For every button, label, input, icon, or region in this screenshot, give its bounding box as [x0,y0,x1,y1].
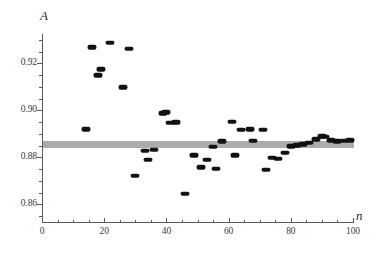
x-tick-major [166,218,167,223]
x-tick-minor [244,220,245,223]
x-tick-minor [73,220,74,223]
y-tick-major [37,110,42,111]
y-tick-label: 0.90 [21,104,37,114]
x-tick-minor [322,220,323,223]
data-point [246,127,255,132]
data-point [237,127,246,132]
data-point [97,67,106,72]
data-point [218,139,227,144]
x-tick-minor [135,220,136,223]
data-point [258,127,267,132]
x-axis-title: n [356,208,363,224]
data-point [280,150,289,155]
data-point [181,192,190,197]
y-axis-title: A [40,8,48,24]
x-tick-label: 60 [224,226,233,236]
data-point [162,110,171,115]
y-tick-minor [39,193,42,194]
data-point [261,167,270,172]
y-tick-label: 0.86 [21,198,37,208]
x-tick-minor [275,220,276,223]
x-tick-major [229,218,230,223]
y-tick-minor [39,216,42,217]
data-point [140,149,149,154]
data-point [149,148,158,153]
data-point [274,156,283,161]
y-tick-label: 0.92 [21,57,37,67]
y-tick-major [37,63,42,64]
x-tick-minor [182,220,183,223]
y-tick-minor [39,99,42,100]
data-point [209,145,218,150]
x-tick-minor [260,220,261,223]
x-tick-label: 40 [162,226,171,236]
x-tick-label: 80 [286,226,295,236]
x-tick-major [353,218,354,223]
y-axis-line [42,34,43,223]
data-point [230,153,239,158]
y-tick-major [37,157,42,158]
x-tick-minor [213,220,214,223]
y-tick-label: 0.88 [21,151,37,161]
y-tick-minor [39,146,42,147]
data-point [171,120,180,125]
data-point [106,40,115,45]
y-tick-minor [39,122,42,123]
x-tick-minor [198,220,199,223]
scatter-plot-figure: 0.860.880.900.92020406080100 A n [0,0,376,253]
data-point [87,45,96,50]
x-tick-major [42,218,43,223]
y-tick-minor [39,40,42,41]
y-tick-major [37,204,42,205]
data-point [125,47,134,52]
y-tick-minor [39,75,42,76]
data-point [227,119,236,124]
x-tick-label: 0 [40,226,45,236]
x-tick-label: 20 [100,226,109,236]
x-tick-minor [306,220,307,223]
data-point [190,153,199,158]
y-tick-minor [39,181,42,182]
x-tick-major [291,218,292,223]
x-tick-major [104,218,105,223]
x-tick-minor [89,220,90,223]
data-point [143,157,152,162]
data-point [249,139,258,144]
y-tick-minor [39,52,42,53]
data-point [93,73,102,78]
x-tick-minor [337,220,338,223]
data-point [212,166,221,171]
x-tick-minor [151,220,152,223]
y-tick-minor [39,87,42,88]
data-point [345,138,354,143]
plot-area: 0.860.880.900.92020406080100 A n [0,0,376,253]
x-tick-label: 100 [346,226,360,236]
data-point [81,127,90,132]
data-point [202,157,211,162]
x-tick-minor [58,220,59,223]
y-tick-minor [39,169,42,170]
data-point [196,165,205,170]
data-point [118,85,127,90]
y-tick-minor [39,134,42,135]
data-point [131,173,140,178]
x-tick-minor [120,220,121,223]
